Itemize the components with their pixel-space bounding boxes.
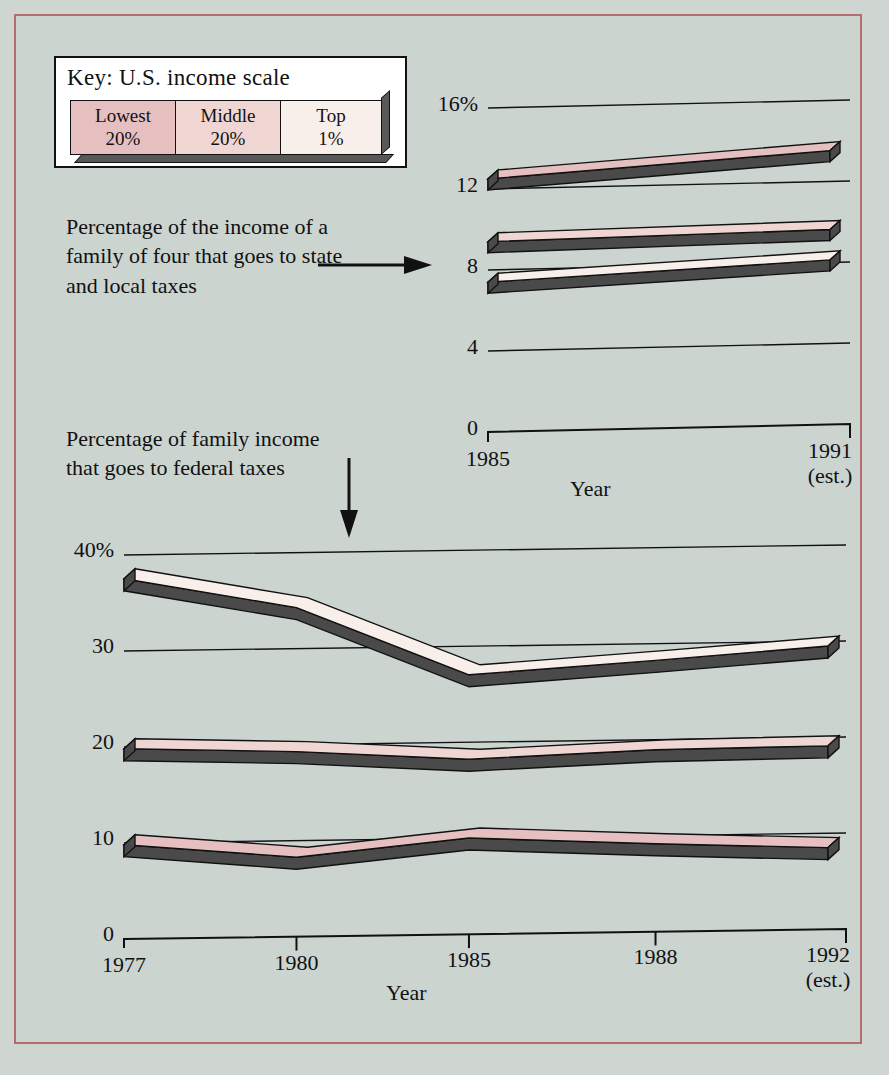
- legend-item-label-line1: Top: [316, 105, 345, 126]
- legend-item-lowest-20: Lowest 20%: [70, 100, 176, 155]
- chart-bottom-x-axis-title: Year: [386, 980, 427, 1006]
- x-tick-label: 1988: [611, 944, 701, 969]
- legend-3d-bottom-face: [74, 154, 394, 163]
- y-tick-label: 4: [467, 334, 478, 360]
- legend-item-label-line2: 20%: [176, 129, 280, 148]
- caption-federal-taxes: Percentage of family income that goes to…: [66, 424, 356, 483]
- legend-item-label-line2: 1%: [281, 129, 381, 148]
- y-tick-label: 20: [92, 729, 114, 755]
- y-tick-label: 8: [467, 253, 478, 279]
- legend-swatch-row: Lowest 20% Middle 20% Top 1%: [70, 100, 382, 155]
- page-frame: Key: U.S. income scale Lowest 20% Middle…: [14, 14, 862, 1044]
- x-tick-label: 1980: [251, 950, 341, 975]
- x-tick-label: 1992(est.): [783, 942, 873, 993]
- legend-item-middle-20: Middle 20%: [175, 100, 281, 155]
- y-tick-label: 10: [92, 825, 114, 851]
- y-tick-label: 40%: [74, 537, 114, 563]
- legend-item-label-line2: 20%: [71, 129, 175, 148]
- chart-page: Key: U.S. income scale Lowest 20% Middle…: [0, 0, 889, 1075]
- chart-top-canvas: [430, 84, 870, 444]
- legend-title: Key: U.S. income scale: [67, 65, 290, 91]
- chart-top-x-axis-title: Year: [570, 476, 611, 502]
- x-tick-label: 1977: [79, 952, 169, 977]
- y-tick-label: 0: [103, 921, 114, 947]
- legend-item-label-line1: Middle: [201, 105, 256, 126]
- y-tick-label: 0: [467, 415, 478, 441]
- y-tick-label: 30: [92, 633, 114, 659]
- legend: Key: U.S. income scale Lowest 20% Middle…: [54, 56, 407, 168]
- y-tick-label: 12: [456, 172, 478, 198]
- y-tick-label: 16%: [438, 91, 478, 117]
- legend-3d-right-face: [381, 90, 390, 155]
- chart-bottom-canvas: [56, 528, 872, 998]
- arrow-right-icon: [316, 252, 436, 278]
- legend-item-top-1: Top 1%: [280, 100, 382, 155]
- x-tick-label: 1985: [443, 446, 533, 471]
- legend-item-label-line1: Lowest: [95, 105, 151, 126]
- x-tick-label: 1985: [424, 947, 514, 972]
- chart-state-local-taxes: 16%12840 19851991(est.) Year: [430, 84, 870, 444]
- chart-federal-taxes: 40%3020100 19771980198519881992(est.) Ye…: [56, 528, 872, 998]
- x-tick-label: 1991(est.): [785, 438, 875, 489]
